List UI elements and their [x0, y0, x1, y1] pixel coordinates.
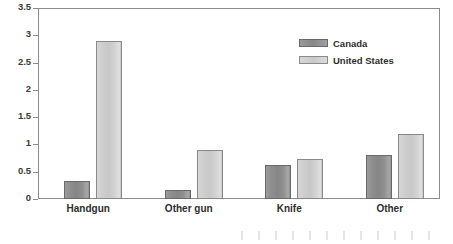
bar-chart: 3.532.521.510.50 HandgunOther gunKnifeOt… — [0, 0, 453, 244]
scan-artifact — [236, 231, 442, 240]
legend-swatch — [299, 56, 328, 64]
legend-item-canada: Canada — [299, 36, 411, 50]
y-axis-tick-label: 2.5 — [18, 56, 31, 67]
bar-group — [157, 8, 258, 199]
x-axis-label: Other — [340, 203, 441, 214]
bar-knife-united-states — [297, 159, 323, 199]
bar-other-gun-united-states — [197, 150, 223, 199]
bar-handgun-united-states — [96, 41, 122, 199]
y-axis-tick-label: 3.5 — [18, 1, 31, 12]
bar-knife-canada — [265, 165, 291, 199]
y-axis-tick-label: 0 — [26, 192, 31, 203]
y-axis: 3.532.521.510.50 — [0, 0, 38, 199]
bar-handgun-canada — [64, 181, 90, 199]
bar-other-gun-canada — [165, 190, 191, 199]
x-axis-label: Knife — [239, 203, 340, 214]
y-axis-tick-label: 1.5 — [18, 110, 31, 121]
bar-other-canada — [366, 155, 392, 199]
legend-item-united-states: United States — [299, 53, 411, 67]
legend-swatch — [299, 39, 328, 47]
y-axis-tick-label: 1 — [26, 137, 31, 148]
legend-label: United States — [333, 55, 394, 66]
bar-group — [56, 8, 157, 199]
x-axis-label: Handgun — [38, 203, 139, 214]
x-axis-labels: HandgunOther gunKnifeOther — [38, 203, 440, 223]
y-axis-tick-label: 2 — [26, 83, 31, 94]
chart-legend: CanadaUnited States — [299, 36, 411, 70]
legend-label: Canada — [333, 38, 367, 49]
bar-other-united-states — [398, 134, 424, 199]
x-axis-label: Other gun — [139, 203, 240, 214]
y-axis-tick-label: 0.5 — [18, 165, 31, 176]
y-axis-tick-label: 3 — [26, 28, 31, 39]
y-axis-tick-mark — [33, 199, 38, 200]
